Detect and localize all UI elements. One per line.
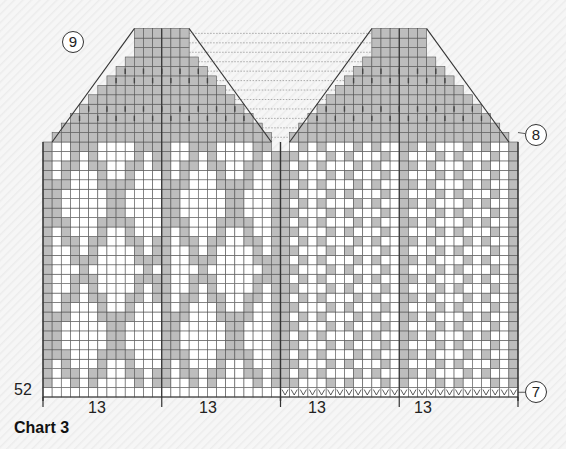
repeat-label-3: 13 xyxy=(308,399,326,417)
chart-title: Chart 3 xyxy=(14,419,69,437)
marker-8: 8 xyxy=(525,124,547,146)
knitting-chart xyxy=(0,0,566,449)
stitch-count-label: 52 xyxy=(14,381,32,399)
marker-7: 7 xyxy=(525,381,547,403)
repeat-label-1: 13 xyxy=(88,399,106,417)
marker-9: 9 xyxy=(62,31,84,53)
repeat-label-2: 13 xyxy=(199,399,217,417)
repeat-label-4: 13 xyxy=(414,399,432,417)
